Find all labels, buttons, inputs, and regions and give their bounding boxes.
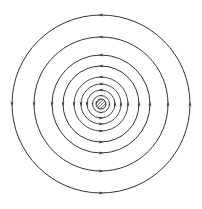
magnetic-field-diagram <box>0 0 202 209</box>
conductor-cross-section <box>96 99 106 109</box>
